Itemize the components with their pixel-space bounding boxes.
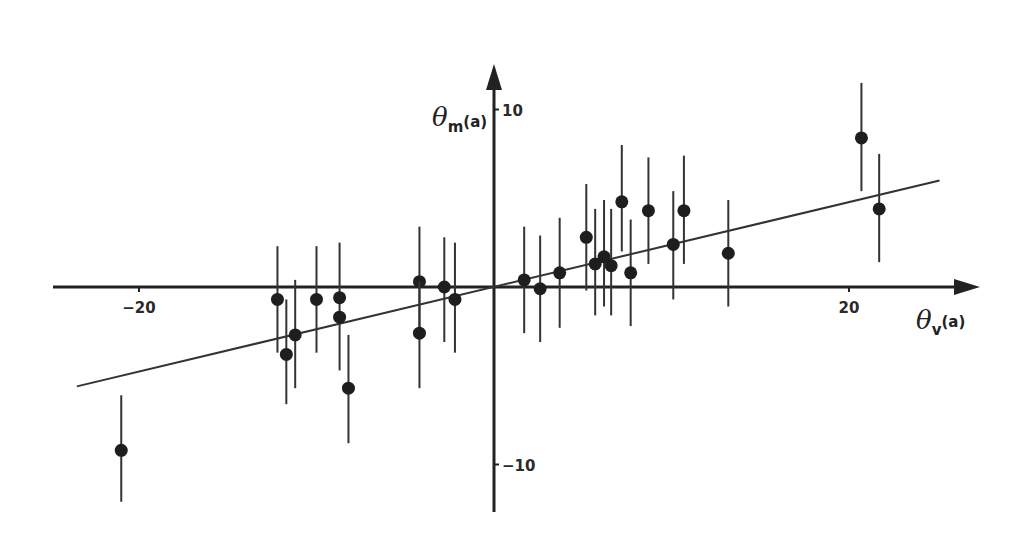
data-point (855, 83, 868, 191)
point-marker (289, 328, 302, 341)
data-point (280, 299, 293, 404)
data-point (115, 395, 128, 502)
data-point (722, 200, 735, 307)
data-point (342, 335, 355, 443)
point-marker (271, 293, 284, 306)
axes (53, 64, 980, 512)
point-marker (342, 382, 355, 395)
data-point (448, 243, 461, 353)
point-marker (605, 259, 618, 272)
data-point (605, 209, 618, 316)
data-point (310, 246, 323, 352)
data-point (553, 218, 566, 328)
data-point (615, 145, 628, 252)
point-marker (642, 204, 655, 217)
point-marker (115, 444, 128, 457)
data-point (624, 220, 637, 326)
point-marker (855, 131, 868, 144)
x-axis-label: θv(a) (916, 305, 965, 339)
fit-line (77, 181, 940, 387)
point-marker (615, 195, 628, 208)
y-tick-label: 10 (502, 102, 523, 120)
data-point (413, 282, 426, 389)
data-point (677, 156, 690, 264)
data-point (518, 227, 531, 334)
point-marker (438, 281, 451, 294)
axis-labels: θm(a) θv(a) (432, 102, 965, 339)
data-point (333, 311, 346, 324)
point-marker (873, 202, 886, 215)
point-marker (280, 348, 293, 361)
regression-line (77, 181, 940, 387)
point-marker (722, 247, 735, 260)
data-point (534, 236, 547, 343)
point-marker (448, 293, 461, 306)
data-points (115, 83, 886, 502)
data-point (289, 280, 302, 388)
point-marker (624, 266, 637, 279)
point-marker (580, 231, 593, 244)
data-point (667, 191, 680, 299)
y-axis-label: θm(a) (432, 102, 487, 136)
point-marker (667, 238, 680, 251)
data-point (580, 184, 593, 290)
y-axis-arrow-icon (486, 64, 502, 90)
point-marker (553, 266, 566, 279)
data-point (333, 243, 346, 371)
data-point (438, 237, 451, 342)
point-marker (333, 311, 346, 324)
x-axis-arrow-icon (954, 279, 980, 295)
point-marker (333, 291, 346, 304)
point-marker (413, 327, 426, 340)
y-tick-label: −10 (502, 457, 535, 475)
data-point (873, 154, 886, 262)
point-marker (518, 273, 531, 286)
data-point (589, 209, 602, 316)
x-tick-label: −20 (122, 299, 155, 317)
scatter-plot: −202010−10 θm(a) θv(a) (0, 0, 1016, 539)
point-marker (310, 293, 323, 306)
point-marker (677, 204, 690, 217)
x-tick-label: 20 (839, 299, 860, 317)
data-point (598, 200, 611, 307)
point-marker (534, 282, 547, 295)
